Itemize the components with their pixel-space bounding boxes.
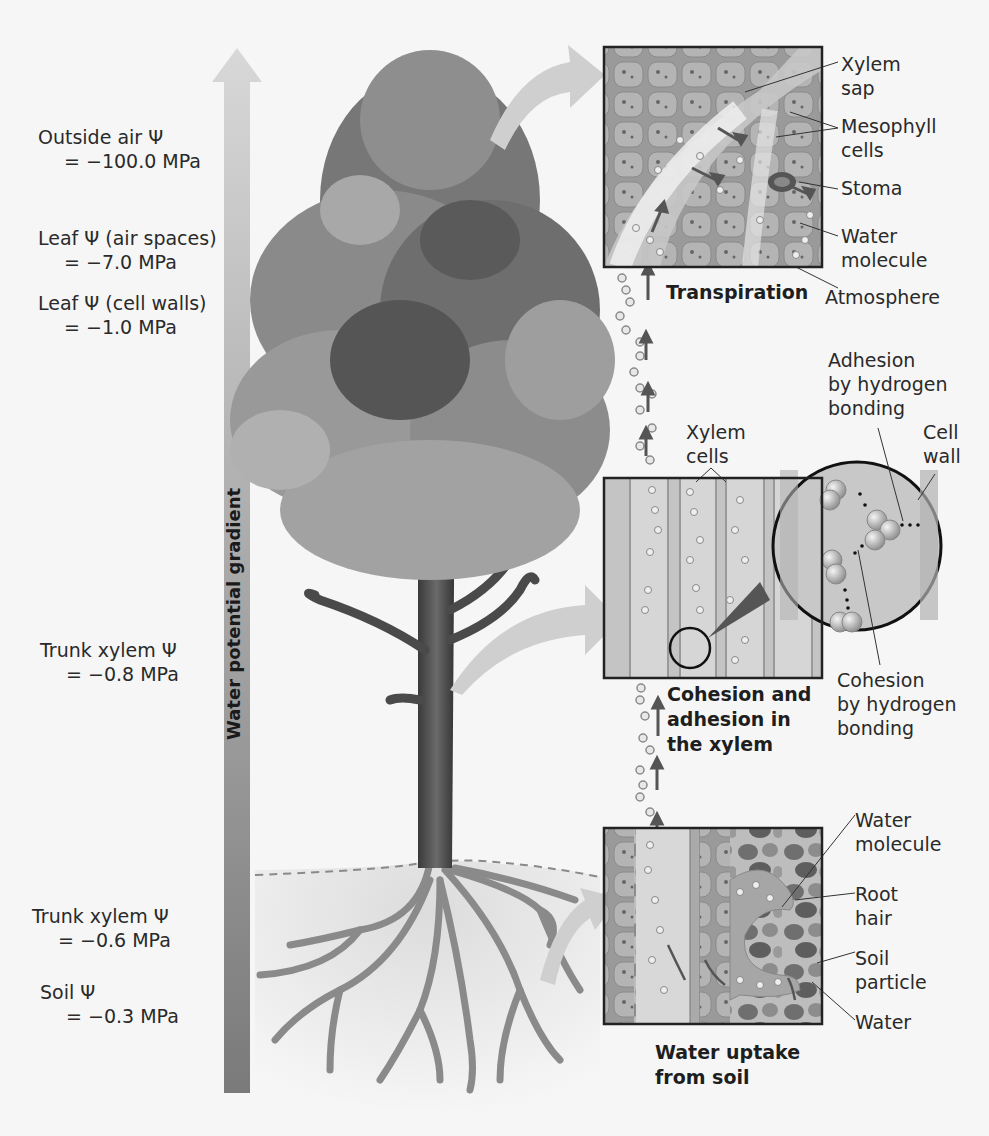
potential-label: Trunk xylem Ψ	[40, 639, 177, 661]
panel-title-uptake: Water uptake from soil	[655, 1040, 800, 1090]
callout-atmosphere: Atmosphere	[825, 285, 940, 309]
potential-value: = −100.0 MPa	[38, 149, 201, 173]
potential-value: = −0.6 MPa	[32, 928, 171, 952]
tree-canopy	[230, 50, 615, 580]
potential-label: Soil Ψ	[40, 981, 95, 1003]
callout-xylem-cells: Xylem cells	[686, 420, 746, 468]
hydrogen-bond-magnifier	[773, 462, 941, 632]
callout-mesophyll-cells: Mesophyll cells	[841, 114, 937, 162]
callout-adhesion: Adhesion by hydrogen bonding	[828, 348, 948, 420]
callout-cohesion: Cohesion by hydrogen bonding	[837, 668, 957, 740]
callout-water: Water	[855, 1010, 911, 1034]
root-panel-art	[604, 828, 822, 1024]
callout-water-molecule: Water molecule	[841, 224, 928, 272]
potential-leaf-air-spaces: Leaf Ψ (air spaces) = −7.0 MPa	[38, 226, 217, 274]
potential-label: Outside air Ψ	[38, 126, 163, 148]
callout-xylem-sap: Xylem sap	[841, 52, 901, 100]
potential-value: = −0.8 MPa	[40, 662, 179, 686]
potential-value: = −1.0 MPa	[38, 315, 207, 339]
callout-water-molecule-soil: Water molecule	[855, 808, 942, 856]
potential-outside-air: Outside air Ψ = −100.0 MPa	[38, 125, 201, 173]
callout-cell-wall: Cell wall	[923, 420, 961, 468]
panel-title-transpiration: Transpiration	[666, 280, 808, 304]
callout-soil-particle: Soil particle	[855, 946, 927, 994]
potential-value: = −7.0 MPa	[38, 250, 217, 274]
potential-label: Trunk xylem Ψ	[32, 905, 169, 927]
gradient-axis-label: Water potential gradient	[223, 488, 244, 740]
potential-value: = −0.3 MPa	[40, 1004, 179, 1028]
leaf-panel-art	[604, 47, 822, 267]
potential-leaf-cell-walls: Leaf Ψ (cell walls) = −1.0 MPa	[38, 291, 207, 339]
potential-trunk-xylem-upper: Trunk xylem Ψ = −0.8 MPa	[40, 638, 179, 686]
callout-stoma: Stoma	[841, 176, 902, 200]
panel-title-cohesion: Cohesion and adhesion in the xylem	[667, 682, 811, 757]
callout-root-hair: Root hair	[855, 882, 898, 930]
potential-soil: Soil Ψ = −0.3 MPa	[40, 980, 179, 1028]
potential-label: Leaf Ψ (cell walls)	[38, 292, 207, 314]
potential-trunk-xylem-lower: Trunk xylem Ψ = −0.6 MPa	[32, 904, 171, 952]
potential-label: Leaf Ψ (air spaces)	[38, 227, 217, 249]
